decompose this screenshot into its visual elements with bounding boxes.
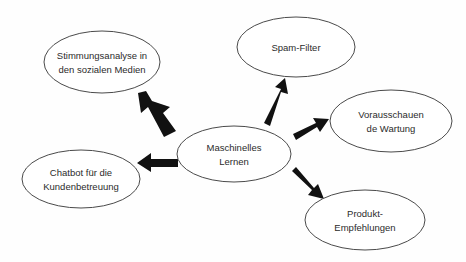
node-chatbot-label-line2: Kundenbetreuung	[43, 181, 119, 192]
node-maschinelles-lernen-label-line2: Lernen	[219, 156, 249, 167]
mindmap-diagram: Stimmungsanalyse in den sozialen Medien …	[0, 0, 466, 262]
node-produkt-empfehlungen-label-line2: Empfehlungen	[334, 222, 395, 233]
node-vorausschauende-wartung-label-line1: Vorausschauen	[358, 109, 424, 120]
node-chatbot-ellipse	[22, 150, 140, 208]
node-maschinelles-lernen-ellipse	[177, 126, 291, 182]
node-vorausschauende-wartung[interactable]: Vorausschauen de Wartung	[330, 90, 452, 152]
node-vorausschauende-wartung-label-line2: de Wartung	[367, 123, 416, 134]
arrow-to-produkt-empfehlungen	[292, 167, 324, 199]
node-produkt-empfehlungen-label-line1: Produkt-	[347, 208, 383, 219]
node-produkt-empfehlungen[interactable]: Produkt- Empfehlungen	[305, 190, 425, 250]
node-chatbot-label-line1: Chatbot für die	[50, 167, 112, 178]
arrow-to-vorausschauende-wartung	[293, 118, 329, 140]
node-stimmungsanalyse-ellipse	[44, 31, 160, 93]
node-stimmungsanalyse-label-line2: den sozialen Medien	[58, 64, 145, 75]
node-spam-filter[interactable]: Spam-Filter	[237, 17, 355, 77]
arrow-to-chatbot	[137, 153, 178, 172]
node-chatbot[interactable]: Chatbot für die Kundenbetreuung	[22, 150, 140, 208]
arrow-to-stimmungsanalyse	[138, 91, 176, 137]
node-vorausschauende-wartung-ellipse	[330, 90, 452, 152]
node-stimmungsanalyse[interactable]: Stimmungsanalyse in den sozialen Medien	[44, 31, 160, 93]
node-spam-filter-label-line1: Spam-Filter	[271, 42, 320, 53]
node-maschinelles-lernen[interactable]: Maschinelles Lernen	[177, 126, 291, 182]
node-maschinelles-lernen-label-line1: Maschinelles	[207, 142, 262, 153]
node-stimmungsanalyse-label-line1: Stimmungsanalyse in	[57, 50, 147, 61]
diagram-canvas-svg: Stimmungsanalyse in den sozialen Medien …	[0, 0, 466, 262]
node-produkt-empfehlungen-ellipse	[305, 190, 425, 250]
arrow-to-spam-filter	[264, 78, 288, 126]
